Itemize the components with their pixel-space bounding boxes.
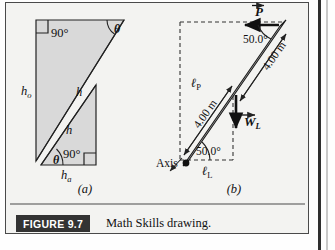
svg-text:P: P bbox=[255, 4, 264, 19]
panel-b-angle-bottom-label: 50.0° bbox=[196, 145, 221, 157]
panel-a-theta-label-top: θ bbox=[114, 22, 121, 36]
panel-a-right-angle-label-top: 90° bbox=[51, 26, 69, 40]
panel-a-hypotenuse-small-label: h bbox=[66, 123, 72, 137]
page-right-edge bbox=[318, 0, 321, 250]
svg-text:WL: WL bbox=[244, 114, 261, 131]
figure-frame: 90° 90° θ θ ho ha h h (a) bbox=[5, 2, 309, 234]
panel-a-caption-label: (a) bbox=[78, 182, 93, 196]
panel-b-axis-label: Axis bbox=[156, 157, 178, 169]
panel-a-right-angle-label-bottom: 90° bbox=[63, 147, 81, 161]
panel-b-force-W-label: WL bbox=[242, 114, 261, 131]
panel-b-lever-arm-P-label: ℓP bbox=[191, 76, 201, 92]
figure-artwork: 90° 90° θ θ ho ha h h (a) bbox=[6, 3, 310, 235]
panel-a-opposite-side-label: ho bbox=[21, 84, 32, 100]
panel-b-axis-pivot bbox=[183, 160, 190, 167]
panel-b-angle-top-label: 50.0° bbox=[243, 33, 268, 45]
panel-b-group: P WL 50.0° 50.0° 4.00 m 4.00 m ℓP bbox=[156, 4, 288, 196]
panel-a-theta-label-bottom: θ bbox=[53, 153, 60, 167]
panel-b-lever-arm-L-label: ℓL bbox=[202, 164, 213, 180]
page-right-edge-shadow bbox=[326, 0, 328, 250]
figure-page: 90° 90° θ θ ho ha h h (a) bbox=[0, 0, 335, 250]
panel-a-group: 90° 90° θ θ ho ha h h (a) bbox=[21, 20, 124, 196]
panel-a-hypotenuse-large-label: h bbox=[76, 85, 82, 99]
figure-number-badge: FIGURE 9.7 bbox=[16, 215, 90, 232]
panel-a-adjacent-side-label: ha bbox=[61, 168, 72, 184]
figure-caption-text: Math Skills drawing. bbox=[106, 215, 211, 232]
panel-b-caption-label: (b) bbox=[227, 182, 242, 196]
panel-b-force-P-label: P bbox=[252, 4, 264, 19]
